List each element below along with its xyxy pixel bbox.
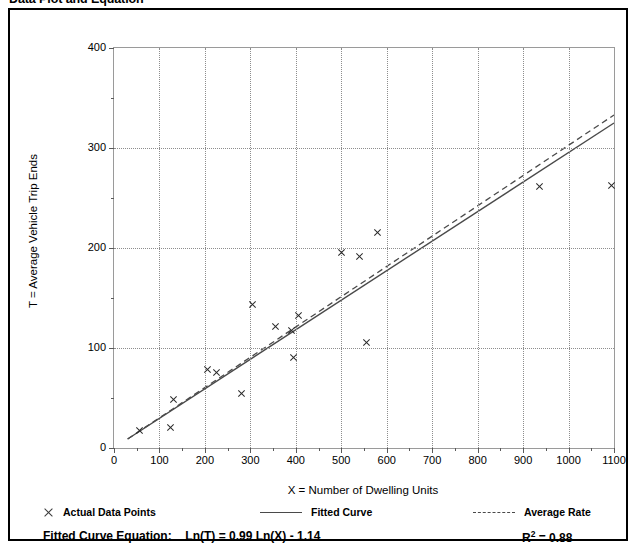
y-axis-tick-label: 200 — [68, 241, 106, 253]
x-axis-minor-tick — [182, 448, 183, 451]
y-axis-minor-tick — [111, 98, 114, 99]
y-axis-tick-label: 400 — [68, 41, 106, 53]
x-axis-tick — [614, 448, 615, 453]
chart-legend: Actual Data PointsFitted CurveAverage Ra… — [18, 501, 637, 523]
legend-x-marker-icon — [43, 507, 54, 518]
gridline-horizontal — [114, 348, 614, 349]
legend-item-label: Average Rate — [524, 506, 591, 518]
y-axis-minor-tick — [111, 198, 114, 199]
plot-area: 0100200300400500600700800900100011000100… — [113, 47, 615, 449]
x-axis-minor-tick — [228, 448, 229, 451]
x-axis-tick — [523, 448, 524, 453]
r-squared-label: R — [522, 531, 531, 545]
y-axis-tick — [109, 348, 114, 349]
x-axis-minor-tick — [319, 448, 320, 451]
x-axis-minor-tick — [455, 448, 456, 451]
x-axis-minor-tick — [500, 448, 501, 451]
y-axis-tick-label: 100 — [68, 341, 106, 353]
y-axis-tick — [109, 448, 114, 449]
equation-label: Fitted Curve Equation: — [43, 529, 172, 543]
x-axis-minor-tick — [364, 448, 365, 451]
y-axis-tick — [109, 48, 114, 49]
x-axis-tick — [296, 448, 297, 453]
y-axis-minor-tick — [111, 298, 114, 299]
x-axis-minor-tick — [273, 448, 274, 451]
fitted-curve-line — [128, 123, 614, 439]
r-squared-exponent: 2 — [531, 529, 536, 539]
page-title: Data Plot and Equation — [9, 0, 144, 6]
average-rate-line — [128, 115, 614, 439]
gridline-horizontal — [114, 148, 614, 149]
x-axis-tick — [341, 448, 342, 453]
x-axis-minor-tick — [546, 448, 547, 451]
legend-item: Fitted Curve — [260, 501, 372, 523]
y-axis-minor-tick — [111, 398, 114, 399]
legend-item-label: Actual Data Points — [63, 506, 156, 518]
y-axis-title: T = Average Vehicle Trip Ends — [27, 81, 39, 381]
chart-page: Data Plot and Equation 01002003004005006… — [0, 0, 637, 549]
x-axis-tick — [159, 448, 160, 453]
equation-text: Ln(T) = 0.99 Ln(X) - 1.14 — [185, 529, 320, 543]
y-axis-tick — [109, 248, 114, 249]
x-axis-tick — [387, 448, 388, 453]
legend-dashed-line-icon — [473, 512, 515, 513]
x-axis-tick-label: 1100 — [584, 454, 637, 466]
equation-row: Fitted Curve Equation: Ln(T) = 0.99 Ln(X… — [18, 529, 637, 549]
legend-solid-line-icon — [260, 512, 302, 513]
plot-inner — [114, 48, 614, 448]
y-axis-tick-label: 300 — [68, 141, 106, 153]
x-axis-tick — [250, 448, 251, 453]
fitted-curve-equation: Fitted Curve Equation: Ln(T) = 0.99 Ln(X… — [43, 529, 320, 543]
y-axis-tick-label: 0 — [68, 441, 106, 453]
chart-frame: 0100200300400500600700800900100011000100… — [8, 8, 628, 541]
x-axis-tick — [205, 448, 206, 453]
x-axis-tick — [478, 448, 479, 453]
x-axis-title: X = Number of Dwelling Units — [113, 484, 613, 496]
legend-item: Actual Data Points — [43, 501, 156, 523]
r-squared-number: = 0.88 — [539, 531, 573, 545]
x-axis-tick — [114, 448, 115, 453]
legend-item-label: Fitted Curve — [311, 506, 372, 518]
x-axis-tick — [569, 448, 570, 453]
x-axis-minor-tick — [409, 448, 410, 451]
x-axis-minor-tick — [591, 448, 592, 451]
x-axis-minor-tick — [137, 448, 138, 451]
r-squared-value: R2 = 0.88 — [522, 529, 572, 545]
x-axis-tick — [432, 448, 433, 453]
gridline-horizontal — [114, 248, 614, 249]
y-axis-tick — [109, 148, 114, 149]
legend-item: Average Rate — [473, 501, 591, 523]
